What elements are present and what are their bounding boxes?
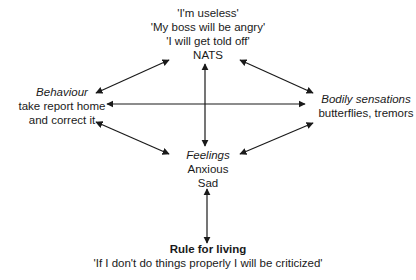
bodily-sensations-node: Bodily sensations butterflies, tremors (306, 92, 416, 120)
bodily-heading: Bodily sensations (306, 92, 416, 106)
behaviour-line-1: take report home (2, 99, 122, 113)
rule-line-1: 'If I don't do things properly I will be… (58, 256, 358, 270)
feelings-heading: Feelings (158, 148, 258, 162)
nats-thought-2: 'My boss will be angry' (108, 20, 308, 34)
nats-thought-3: 'I will get told off' (108, 34, 308, 48)
behaviour-line-2: and correct it (2, 113, 122, 127)
feelings-line-1: Anxious (158, 162, 258, 176)
rule-heading: Rule for living (58, 242, 358, 256)
arrow-nats-bodily (240, 60, 313, 93)
bodily-line-1: butterflies, tremors (306, 106, 416, 120)
rule-for-living-node: Rule for living 'If I don't do things pr… (58, 242, 358, 270)
feelings-node: Feelings Anxious Sad (158, 148, 258, 190)
behaviour-node: Behaviour take report home and correct i… (2, 85, 122, 127)
nats-thought-1: 'I'm useless' (108, 6, 308, 20)
feelings-line-2: Sad (158, 176, 258, 190)
behaviour-heading: Behaviour (2, 85, 122, 99)
nats-node: 'I'm useless' 'My boss will be angry' 'I… (108, 6, 308, 62)
nats-label: NATS (108, 48, 308, 62)
